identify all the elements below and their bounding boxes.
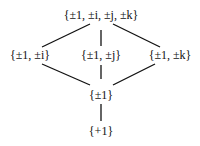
edge-ci-c2 — [42, 64, 90, 85]
subgroup-lattice-diagram: {±1, ±i, ±j, ±k} {±1, ±i} {±1, ±j} {±1, … — [0, 0, 200, 146]
node-q8: {±1, ±i, ±j, ±k} — [64, 8, 139, 23]
edge-q8-ci — [42, 24, 90, 47]
node-ck: {±1, ±k} — [149, 48, 192, 63]
edge-q8-ck — [113, 24, 160, 47]
node-cj: {±1, ±j} — [81, 48, 121, 63]
edge-ck-c2 — [113, 64, 155, 85]
node-c1: {+1} — [89, 124, 113, 139]
node-c2: {±1} — [89, 88, 113, 103]
node-ci: {±1, ±i} — [10, 48, 50, 63]
